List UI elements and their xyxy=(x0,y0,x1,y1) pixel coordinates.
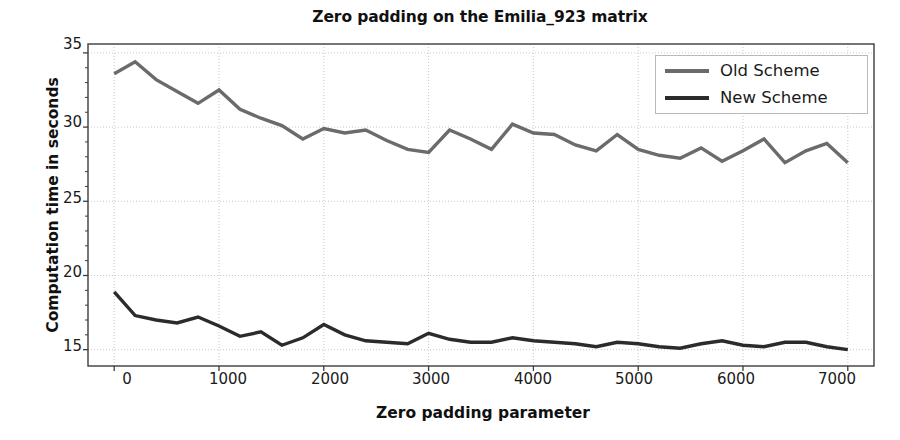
series-line-new-scheme xyxy=(114,292,848,350)
legend-swatch-old-scheme xyxy=(665,69,709,73)
legend-label: Old Scheme xyxy=(720,63,820,80)
legend-label: New Scheme xyxy=(720,90,828,107)
chart-legend[interactable]: Old Scheme New Scheme xyxy=(655,55,868,114)
legend-item-new-scheme[interactable]: New Scheme xyxy=(665,85,828,111)
legend-item-old-scheme[interactable]: Old Scheme xyxy=(665,58,820,84)
chart-figure: Zero padding on the Emilia_923 matrix Co… xyxy=(0,0,900,440)
legend-swatch-new-scheme xyxy=(665,96,709,100)
